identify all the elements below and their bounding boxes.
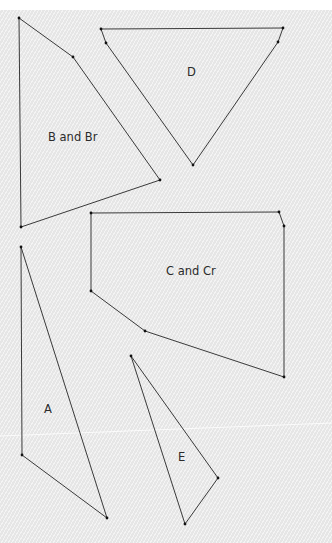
piece-label: C and Cr [166,264,216,278]
vertex-dot [90,290,93,293]
vertex-dot [21,454,24,457]
vertex-dot [100,28,103,31]
piece-c: C and Cr [90,211,286,379]
piece-outline [91,212,284,377]
piece-label: B and Br [48,130,98,144]
vertex-dot [283,376,286,379]
piece-outline [131,356,218,524]
piece-a: A [20,246,109,520]
vertex-dot [277,41,280,44]
vertex-dot [283,225,286,228]
piece-e: E [130,355,220,526]
vertex-dot [184,523,187,526]
piece-label: D [187,65,196,79]
vertex-dot [105,42,108,45]
vertex-dot [106,517,109,520]
crease-line [0,423,332,436]
piece-outline [19,18,160,227]
piece-d: D [100,27,285,167]
vertex-dot [278,211,281,214]
vertex-dot [72,56,75,59]
vertex-dot [90,212,93,215]
polygon-diagram: B and BrDC and CrAE [0,0,332,543]
vertex-dot [130,355,133,358]
vertex-dot [18,17,21,20]
vertex-dot [159,179,162,182]
piece-label: E [178,450,185,464]
vertex-dot [144,330,147,333]
piece-label: A [44,402,52,416]
vertex-dot [192,164,195,167]
piece-outline [101,28,283,165]
piece-b: B and Br [18,17,162,229]
piece-outline [21,247,107,518]
vertex-dot [20,226,23,229]
vertex-dot [217,477,220,480]
vertex-dot [20,246,23,249]
vertex-dot [282,27,285,30]
